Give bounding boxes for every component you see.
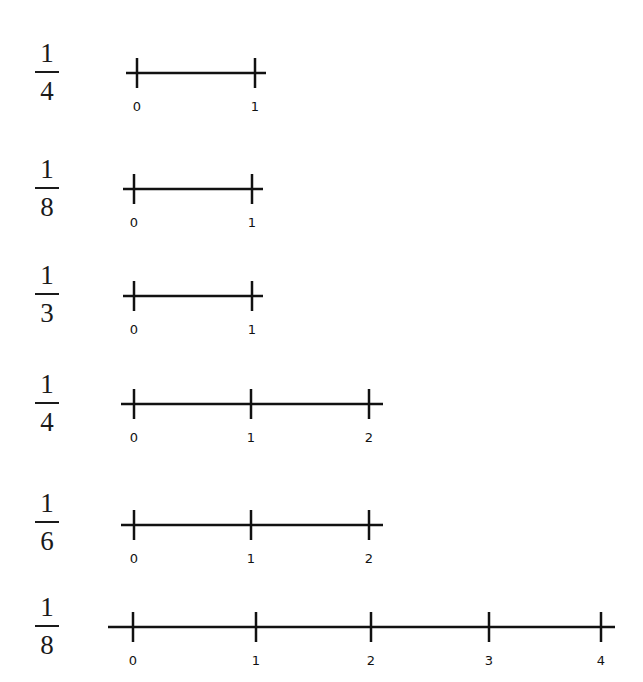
number-line: 01 bbox=[126, 58, 266, 114]
tick-label: 4 bbox=[597, 653, 605, 668]
number-line: 012 bbox=[121, 389, 383, 445]
tick-label: 3 bbox=[485, 653, 493, 668]
tick-label: 1 bbox=[248, 215, 256, 230]
number-line: 01 bbox=[123, 174, 263, 230]
tick-label: 0 bbox=[130, 430, 138, 445]
tick-label: 1 bbox=[251, 99, 259, 114]
number-lines: 01010101201201234 bbox=[0, 0, 643, 682]
tick-label: 0 bbox=[130, 551, 138, 566]
number-line: 01 bbox=[123, 281, 263, 337]
tick-label: 0 bbox=[133, 99, 141, 114]
tick-label: 0 bbox=[130, 322, 138, 337]
tick-label: 1 bbox=[252, 653, 260, 668]
tick-label: 1 bbox=[248, 322, 256, 337]
tick-label: 1 bbox=[247, 430, 255, 445]
tick-label: 2 bbox=[367, 653, 375, 668]
tick-label: 2 bbox=[365, 551, 373, 566]
tick-label: 0 bbox=[129, 653, 137, 668]
tick-label: 1 bbox=[247, 551, 255, 566]
tick-label: 0 bbox=[130, 215, 138, 230]
tick-label: 2 bbox=[365, 430, 373, 445]
number-line: 01234 bbox=[108, 612, 615, 668]
number-line: 012 bbox=[121, 510, 383, 566]
